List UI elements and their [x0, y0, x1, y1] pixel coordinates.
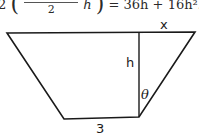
label-h: h — [126, 56, 134, 69]
trapezoid-figure: 2 ( . 2 h ) = 36h + 16h². x h θ 3 — [0, 0, 199, 136]
trapezoid-outline — [7, 32, 195, 119]
trapezoid-drawing — [0, 0, 199, 136]
label-x: x — [160, 18, 168, 31]
label-theta: θ — [141, 88, 149, 101]
label-base-3: 3 — [96, 122, 104, 135]
